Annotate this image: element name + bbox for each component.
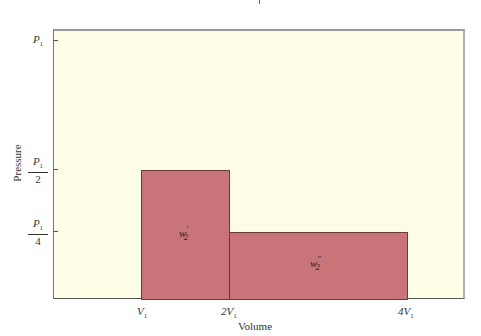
bar-w2-double-prime: w″2	[229, 232, 408, 300]
bar-w2-prime: w′2	[141, 170, 230, 300]
ylabel-p1-half: P1 2	[28, 155, 48, 185]
plot-area: w′2 w″2	[53, 29, 465, 299]
bar-label-w2-prime: w′2	[179, 225, 188, 242]
ytick-p1-quarter	[53, 231, 58, 232]
bar-label-w2-double-prime: w″2	[310, 255, 320, 272]
ytick-p1	[53, 40, 58, 41]
xlabel-2v1: 2V1	[221, 305, 237, 320]
ylabel-p1: P1	[28, 33, 48, 48]
page-mark	[259, 0, 260, 4]
ytick-p1-half	[53, 169, 58, 170]
x-axis-title: Volume	[238, 320, 272, 332]
y-axis-title: Pressure	[11, 138, 23, 188]
xlabel-v1: V1	[137, 305, 147, 320]
xlabel-4v1: 4V1	[398, 305, 414, 320]
ylabel-p1-quarter: P1 4	[28, 217, 48, 247]
